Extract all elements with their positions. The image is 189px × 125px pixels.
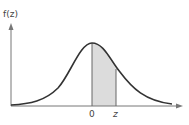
x-axis-arrow-icon (176, 104, 183, 109)
shaded-area (92, 43, 116, 106)
y-axis-arrow-icon (9, 23, 14, 30)
y-axis-label: f(z) (3, 9, 18, 19)
normal-distribution-chart: f(z) 0 z (0, 0, 189, 125)
tick-label-z: z (112, 109, 118, 119)
tick-label-zero: 0 (89, 109, 95, 119)
